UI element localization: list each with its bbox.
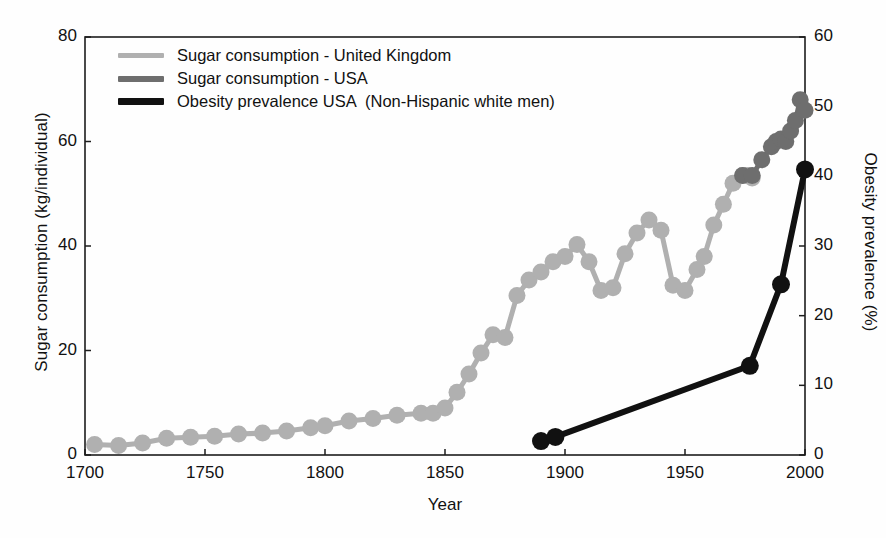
data-point (254, 425, 271, 442)
data-point (497, 329, 514, 346)
data-point (317, 417, 334, 434)
data-point (557, 248, 574, 265)
plot-area (0, 0, 886, 538)
data-point (569, 236, 586, 253)
data-point (389, 407, 406, 424)
data-point (134, 435, 151, 452)
data-point (653, 222, 670, 239)
data-point (365, 410, 382, 427)
data-point (741, 357, 759, 375)
chart-figure: Sugar consumption (kg/individual) Obesit… (0, 0, 886, 538)
series-0 (86, 167, 761, 454)
data-point (86, 436, 103, 453)
data-point (473, 345, 490, 362)
data-point (110, 437, 127, 454)
series-2 (532, 160, 814, 450)
data-point (449, 384, 466, 401)
data-point (744, 167, 761, 184)
data-point (278, 423, 295, 440)
data-point (230, 426, 247, 443)
data-point (302, 419, 319, 436)
data-point (546, 428, 564, 446)
data-point (206, 428, 223, 445)
data-point (581, 253, 598, 270)
plot-frame (85, 37, 805, 455)
data-point (677, 282, 694, 299)
series-line (541, 169, 805, 441)
data-point (182, 429, 199, 446)
data-point (696, 248, 713, 265)
data-point (629, 224, 646, 241)
data-point (605, 279, 622, 296)
data-point (797, 102, 814, 119)
data-point (715, 196, 732, 213)
data-point (509, 287, 526, 304)
data-point (461, 366, 478, 383)
data-point (796, 160, 814, 178)
data-point (705, 217, 722, 234)
data-point (158, 430, 175, 447)
data-point (437, 400, 454, 417)
data-point (617, 245, 634, 262)
data-point (341, 413, 358, 430)
data-point (772, 275, 790, 293)
